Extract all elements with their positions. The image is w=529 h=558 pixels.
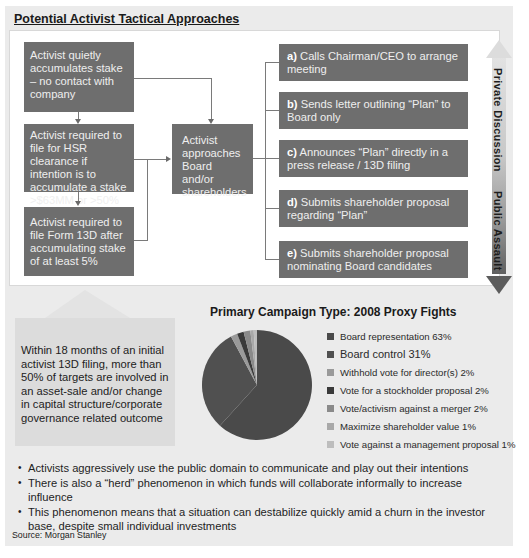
legend-swatch	[327, 333, 334, 340]
legend-item: Vote/activism against a merger 2%	[327, 399, 515, 417]
pie-chart	[201, 329, 313, 441]
option-letter: c)	[287, 146, 297, 158]
flow-box-accumulate: Activist quietly accumulates stake – no …	[24, 42, 134, 112]
flow-box-13d: Activist required to file Form 13D after…	[24, 207, 134, 276]
connector-line	[211, 78, 212, 119]
legend-label: Withhold vote for director(s) 2%	[340, 367, 474, 378]
arrowhead-down-icon	[75, 201, 81, 206]
key-points-list: Activists aggressively use the public do…	[18, 461, 508, 534]
flow-box-hsr: Activist required to file for HSR cleara…	[24, 124, 134, 192]
option-box-c: c) Announces “Plan” directly in a press …	[279, 140, 468, 177]
option-letter: b)	[287, 98, 298, 110]
connector-line	[253, 158, 279, 159]
connector-line	[265, 62, 266, 260]
legend-item: Vote against a management proposal 1%	[327, 435, 515, 453]
source-note: Source: Morgan Stanley	[12, 530, 106, 540]
connector-line	[265, 110, 279, 111]
flow-box-text: Activist quietly accumulates stake – no …	[30, 49, 123, 100]
legend-label: Vote for a stockholder proposal 2%	[340, 385, 489, 396]
legend-swatch	[327, 405, 334, 412]
option-box-b: b) Sends letter outlining “Plan” to Boar…	[279, 92, 468, 129]
legend-swatch	[327, 423, 334, 430]
callout-text: Within 18 months of an initial activist …	[21, 344, 171, 425]
connector-line	[134, 78, 212, 79]
pie-slices	[202, 330, 312, 440]
arrowhead-down-icon	[75, 119, 81, 124]
legend-swatch	[327, 441, 334, 448]
option-text: Submits shareholder proposal regarding “…	[287, 196, 449, 221]
page-title: Potential Activist Tactical Approaches	[14, 12, 239, 26]
legend-label: Maximize shareholder value 1%	[340, 421, 476, 432]
legend-label: Vote/activism against a merger 2%	[340, 403, 488, 414]
scale-label-public: Public Assault	[492, 191, 504, 271]
connector-line	[134, 240, 148, 241]
connector-line	[134, 159, 167, 160]
legend-swatch	[327, 387, 334, 394]
legend-label: Board representation 63%	[340, 331, 451, 342]
connector-line	[265, 208, 279, 209]
bullet-item: There is also a “herd” phenomenon in whi…	[18, 476, 508, 505]
option-letter: e)	[287, 247, 297, 259]
arrowhead-right-icon	[166, 156, 171, 162]
connector-line	[147, 159, 148, 241]
option-text: Sends letter outlining “Plan” to Board o…	[287, 98, 451, 123]
legend-label: Board control 31%	[340, 348, 431, 360]
chart-legend: Board representation 63% Board control 3…	[327, 327, 515, 453]
connector-line	[265, 259, 279, 260]
option-text: Submits shareholder proposal nominating …	[287, 247, 449, 272]
legend-item: Maximize shareholder value 1%	[327, 417, 515, 435]
option-text: Announces “Plan” directly in a press rel…	[287, 146, 448, 171]
flow-box-text: Activist approaches Board and/or shareho…	[182, 134, 247, 198]
option-letter: a)	[287, 50, 297, 62]
chart-title: Primary Campaign Type: 2008 Proxy Fights	[210, 305, 457, 319]
flow-box-approach: Activist approaches Board and/or shareho…	[172, 124, 253, 194]
connector-line	[265, 62, 279, 63]
callout-pointer	[45, 290, 130, 318]
option-text: Calls Chairman/CEO to arrange meeting	[287, 50, 458, 75]
arrow-up-icon	[486, 40, 512, 58]
legend-label: Vote against a management proposal 1%	[340, 439, 515, 450]
option-box-a: a) Calls Chairman/CEO to arrange meeting	[279, 44, 468, 81]
scale-label-private: Private Discussion	[492, 68, 504, 172]
option-box-d: d) Submits shareholder proposal regardin…	[279, 190, 468, 227]
legend-item: Withhold vote for director(s) 2%	[327, 363, 515, 381]
bullet-item: Activists aggressively use the public do…	[18, 461, 508, 476]
legend-item: Board representation 63%	[327, 327, 515, 345]
legend-item: Board control 31%	[327, 345, 515, 363]
arrowhead-down-icon	[208, 119, 214, 124]
option-box-e: e) Submits shareholder proposal nominati…	[279, 241, 468, 278]
arrow-down-icon	[486, 276, 512, 294]
legend-swatch	[327, 351, 334, 358]
option-letter: d)	[287, 196, 298, 208]
legend-item: Vote for a stockholder proposal 2%	[327, 381, 515, 399]
flow-box-text: Activist required to file Form 13D after…	[30, 216, 126, 267]
legend-swatch	[327, 369, 334, 376]
